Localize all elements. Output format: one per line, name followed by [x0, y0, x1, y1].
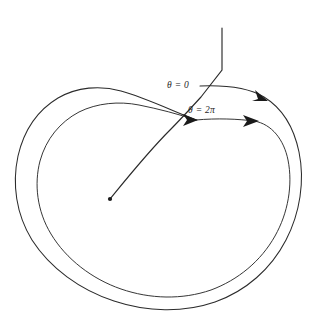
label-theta-zero: θ = 0	[167, 81, 189, 91]
spiral-diagram-canvas	[0, 0, 319, 317]
inner-turn-arrow-icon	[243, 115, 259, 127]
origin-dot-icon	[108, 197, 112, 201]
outer-turn-arrow-icon	[252, 90, 268, 101]
label-theta-twopi: θ = 2π	[188, 106, 215, 116]
spiral-inner-turn-path	[37, 103, 290, 297]
spiral-outer-turn-path	[15, 86, 301, 310]
intersection-arrow-icon	[183, 114, 198, 126]
spiral-figure: θ = 0 θ = 2π	[0, 0, 319, 317]
